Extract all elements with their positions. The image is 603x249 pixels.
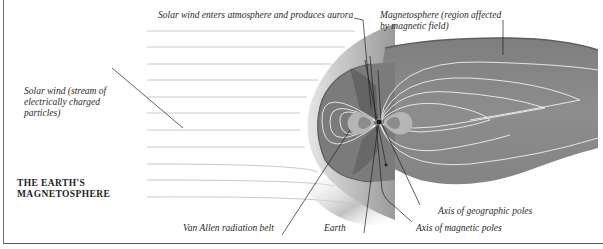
title-line-2: MAGNETOSPHERE — [17, 189, 110, 200]
label-solar-wind-2: electrically charged — [24, 97, 100, 108]
label-van-allen: Van Allen radiation belt — [183, 223, 274, 234]
label-solar-wind-3: particles) — [24, 108, 60, 119]
label-earth: Earth — [324, 223, 346, 234]
label-axis-magnetic: Axis of magnetic poles — [416, 223, 502, 234]
figure-title: THE EARTH'S MAGNETOSPHERE — [17, 178, 110, 200]
label-solar-wind-1: Solar wind (stream of — [24, 86, 106, 97]
title-line-1: THE EARTH'S — [17, 178, 110, 189]
label-magnetosphere-2: by magnetic field) — [380, 21, 449, 32]
label-aurora: Solar wind enters atmosphere and produce… — [158, 10, 353, 21]
label-axis-geographic: Axis of geographic poles — [438, 206, 532, 217]
label-magnetosphere-1: Magnetosphere (region affected — [380, 10, 501, 21]
